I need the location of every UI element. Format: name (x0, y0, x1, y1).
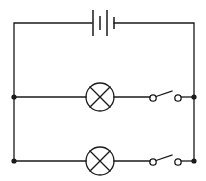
wires (14, 23, 194, 161)
switch-icon (150, 91, 181, 101)
lamp-icon (86, 147, 114, 175)
circuit-diagram (0, 0, 206, 181)
switch-icon (150, 155, 181, 165)
junction-dots (11, 94, 196, 163)
lamp-icon (86, 83, 114, 111)
battery-icon (93, 10, 114, 36)
